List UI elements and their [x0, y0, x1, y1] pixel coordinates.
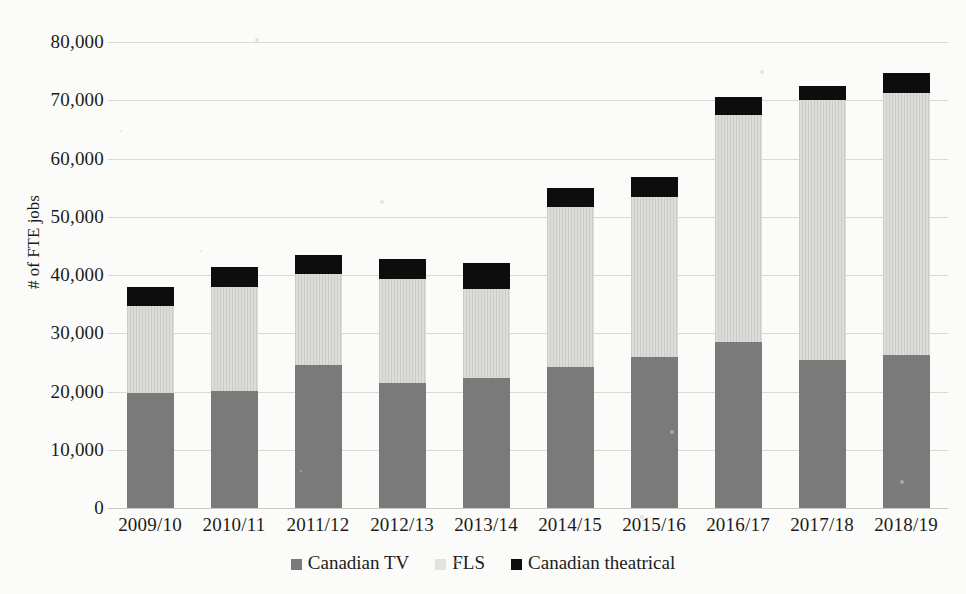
paper-speckle: [640, 515, 644, 519]
bar-stack[interactable]: [379, 259, 426, 508]
bar-stack[interactable]: [127, 287, 174, 508]
legend-item-label: Canadian theatrical: [528, 552, 675, 574]
bar-segment[interactable]: [883, 73, 930, 93]
plot-area: [108, 42, 948, 508]
y-axis-tick-label: 20,000: [8, 381, 104, 403]
paper-speckle: [120, 130, 122, 132]
gridline: [108, 42, 948, 43]
paper-speckle: [825, 170, 827, 172]
paper-speckle: [255, 38, 259, 42]
paper-speckle: [670, 430, 674, 434]
paper-speckle: [200, 250, 202, 252]
bar-segment[interactable]: [547, 367, 594, 508]
x-axis-tick-label: 2012/13: [370, 514, 434, 536]
y-axis-tick-label: 50,000: [8, 206, 104, 228]
bar-segment[interactable]: [715, 115, 762, 342]
chart-figure: # of FTE jobs 80,00070,00060,00050,00040…: [0, 0, 966, 594]
y-axis-tick-label: 0: [8, 497, 104, 519]
bar-segment[interactable]: [211, 287, 258, 391]
bar-segment[interactable]: [547, 207, 594, 367]
bar-segment[interactable]: [127, 306, 174, 392]
paper-speckle: [560, 300, 562, 302]
legend-item[interactable]: Canadian TV: [291, 552, 410, 574]
bar-stack[interactable]: [631, 177, 678, 508]
bar-segment[interactable]: [127, 393, 174, 508]
bar-segment[interactable]: [631, 177, 678, 197]
square-icon-black-icon: [511, 559, 522, 570]
x-axis-tick-label: 2018/19: [874, 514, 938, 536]
axis-baseline: [108, 508, 948, 509]
bar-stack[interactable]: [715, 97, 762, 508]
chart-legend: Canadian TVFLSCanadian theatrical: [0, 552, 966, 574]
legend-item[interactable]: FLS: [435, 552, 485, 574]
bar-stack[interactable]: [799, 86, 846, 508]
x-axis-tick-label: 2011/12: [287, 514, 350, 536]
x-axis-tick-label: 2016/17: [706, 514, 770, 536]
legend-item[interactable]: Canadian theatrical: [511, 552, 675, 574]
bar-segment[interactable]: [463, 378, 510, 508]
paper-speckle: [380, 200, 384, 204]
square-icon-gray-icon: [291, 559, 302, 570]
square-icon-light-icon: [435, 559, 446, 570]
bar-segment[interactable]: [883, 93, 930, 355]
paper-speckle: [900, 480, 904, 484]
bar-segment[interactable]: [799, 86, 846, 100]
paper-speckle: [760, 70, 764, 74]
bar-stack[interactable]: [211, 267, 258, 508]
bar-segment[interactable]: [883, 355, 930, 508]
bar-segment[interactable]: [379, 279, 426, 383]
x-axis-tick-label: 2017/18: [790, 514, 854, 536]
x-axis-tick-label: 2013/14: [454, 514, 518, 536]
bar-segment[interactable]: [127, 287, 174, 307]
bar-segment[interactable]: [295, 255, 342, 275]
bar-segment[interactable]: [715, 342, 762, 508]
x-axis-tick-labels: 2009/102010/112011/122012/132013/142014/…: [108, 514, 948, 544]
bar-segment[interactable]: [463, 289, 510, 378]
y-axis-tick-label: 30,000: [8, 322, 104, 344]
bar-segment[interactable]: [631, 197, 678, 357]
bar-segment[interactable]: [211, 391, 258, 508]
paper-speckle: [455, 560, 459, 564]
x-axis-tick-label: 2014/15: [538, 514, 602, 536]
x-axis-tick-label: 2010/11: [203, 514, 266, 536]
x-axis-tick-label: 2015/16: [622, 514, 686, 536]
legend-item-label: Canadian TV: [308, 552, 410, 574]
bar-segment[interactable]: [463, 263, 510, 289]
y-axis-tick-label: 80,000: [8, 31, 104, 53]
paper-speckle: [300, 470, 302, 472]
bar-stack[interactable]: [547, 188, 594, 508]
y-axis-tick-label: 10,000: [8, 439, 104, 461]
bar-segment[interactable]: [799, 100, 846, 360]
bar-stack[interactable]: [883, 73, 930, 508]
y-axis-tick-label: 40,000: [8, 264, 104, 286]
bar-segment[interactable]: [799, 360, 846, 508]
bar-segment[interactable]: [379, 259, 426, 279]
y-axis-tick-labels: 80,00070,00060,00050,00040,00030,00020,0…: [0, 42, 104, 508]
x-axis-tick-label: 2009/10: [118, 514, 182, 536]
bar-segment[interactable]: [715, 97, 762, 115]
y-axis-tick-label: 70,000: [8, 89, 104, 111]
bar-segment[interactable]: [295, 274, 342, 364]
bar-stack[interactable]: [463, 263, 510, 508]
bar-segment[interactable]: [295, 365, 342, 508]
bar-segment[interactable]: [547, 188, 594, 207]
bar-segment[interactable]: [211, 267, 258, 287]
bar-segment[interactable]: [379, 383, 426, 508]
y-axis-tick-label: 60,000: [8, 148, 104, 170]
